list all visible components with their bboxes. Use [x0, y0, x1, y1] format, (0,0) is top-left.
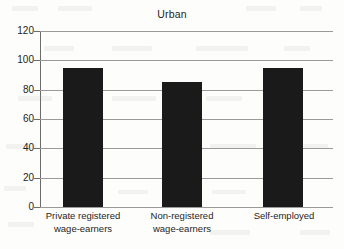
y-tick-label-80: 80	[2, 85, 34, 95]
bar-self-employed	[263, 68, 303, 207]
x-label-line-2: wage-earners	[28, 223, 138, 236]
gridline-120	[40, 31, 333, 32]
gridline-0	[40, 207, 333, 208]
bar-non-registered-wage-earners	[162, 82, 202, 207]
x-label-line-2: wage-earners	[130, 223, 234, 236]
y-tick-label-120: 120	[2, 26, 34, 36]
x-label-self-employed: Self-employed	[236, 210, 332, 223]
x-label-line-1: Non-registered	[130, 210, 234, 223]
y-tick-label-100: 100	[2, 55, 34, 65]
bar-private-registered-wage-earners	[63, 68, 103, 207]
x-label-non-registered-wage-earners: Non-registered wage-earners	[130, 210, 234, 235]
chart-title: Urban	[0, 8, 344, 20]
y-tick-label-60: 60	[2, 114, 34, 124]
scan-artifact	[4, 186, 26, 191]
plot-area	[40, 31, 333, 207]
chart-page: Urban 120 100 80 60 40 20 0 Private regi…	[0, 0, 344, 249]
x-label-private-registered-wage-earners: Private registered wage-earners	[28, 210, 138, 235]
x-label-line-1: Private registered	[28, 210, 138, 223]
y-tick-label-40: 40	[2, 143, 34, 153]
x-label-line-1: Self-employed	[236, 210, 332, 223]
gridline-100	[40, 60, 333, 61]
x-axis-labels: Private registered wage-earners Non-regi…	[40, 210, 333, 248]
y-tick-label-20: 20	[2, 173, 34, 183]
